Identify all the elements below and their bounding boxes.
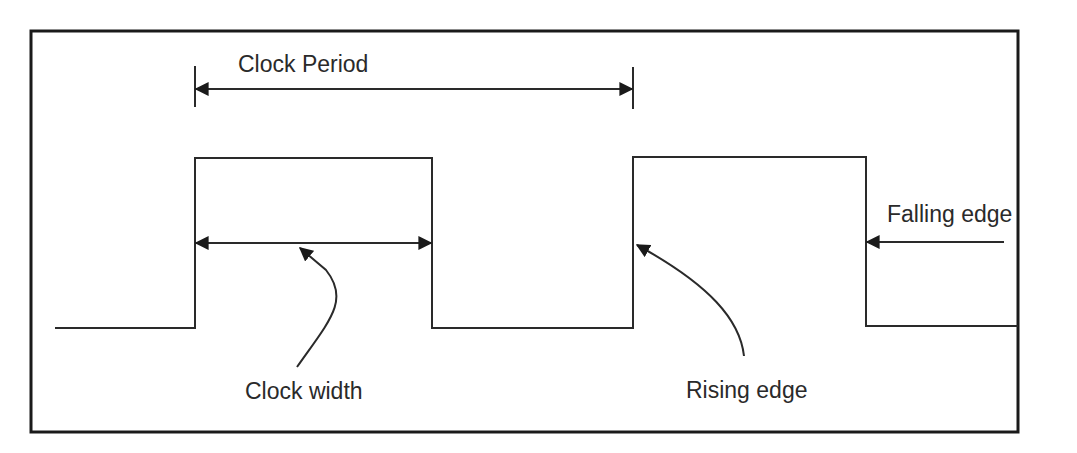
clock-width-leader <box>297 248 337 367</box>
diagram-frame <box>31 31 1018 432</box>
clock-period-label: Clock Period <box>238 53 368 76</box>
clock-width-label: Clock width <box>245 380 363 403</box>
rising-edge-leader <box>637 245 744 356</box>
rising-edge-label: Rising edge <box>686 379 807 402</box>
falling-edge-label: Falling edge <box>887 203 1012 226</box>
